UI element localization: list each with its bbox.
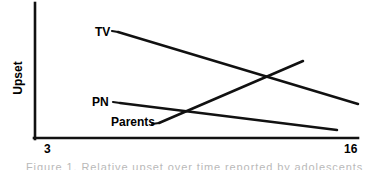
y-axis-label: Upset (12, 52, 24, 104)
series-line-parents (159, 61, 303, 123)
series-label-parents: Parents (111, 116, 155, 128)
leader-line-pn (113, 102, 120, 103)
clipped-caption-text: Figure 1. Relative upset over time repor… (26, 161, 366, 170)
series-label-pn: PN (92, 96, 109, 108)
line-chart-canvas (0, 0, 384, 170)
series-label-tv: TV (95, 26, 110, 38)
series-line-tv (118, 32, 358, 104)
leader-line-tv (112, 31, 118, 32)
figure-container: TV PN Parents Upset 3 16 Figure 1. Relat… (0, 0, 384, 170)
x-axis-tick-label-right: 16 (344, 143, 357, 155)
x-axis-tick-label-left: 3 (44, 143, 51, 155)
